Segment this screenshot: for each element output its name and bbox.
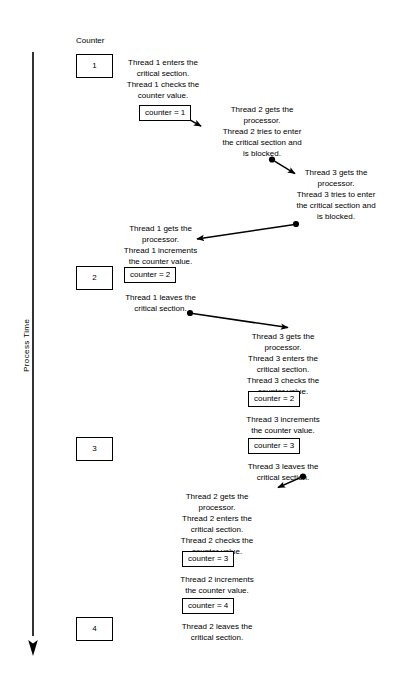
event-thread2-enters: Thread 2 gets the processor. Thread 2 en…: [161, 491, 273, 557]
counter-box-3: 3: [76, 437, 113, 461]
diagram-canvas: Process Time Counter 1 2 3 4 Thread 1 en…: [0, 0, 398, 685]
event-thread2-increments: Thread 2 increments the counter value.: [161, 574, 273, 596]
event-thread2-blocked: Thread 2 gets the processor. Thread 2 tr…: [201, 104, 323, 159]
event-thread2-leaves: Thread 2 leaves the critical section.: [161, 621, 273, 643]
event-thread3-increments: Thread 3 increments the counter value.: [227, 414, 339, 436]
event-thread3-leaves: Thread 3 leaves the critical section.: [227, 461, 339, 483]
value-box-counter-2a: counter = 2: [124, 267, 176, 283]
event-thread3-blocked: Thread 3 gets the processor. Thread 3 tr…: [275, 167, 397, 222]
value-box-counter-1: counter = 1: [139, 105, 191, 121]
event-thread1-gets-processor: Thread 1 gets the processor. Thread 1 in…: [103, 223, 218, 267]
value-box-counter-3a: counter = 3: [248, 438, 300, 454]
value-box-counter-2b: counter = 2: [248, 391, 300, 407]
event-thread1-leaves: Thread 1 leaves the critical section.: [103, 292, 218, 314]
event-thread1-enters: Thread 1 enters the critical section. Th…: [108, 57, 218, 101]
value-box-counter-3b: counter = 3: [182, 551, 234, 567]
process-time-label: Process Time: [22, 319, 31, 372]
counter-box-4: 4: [76, 617, 113, 641]
counter-column-header: Counter: [76, 36, 104, 45]
event-thread3-enters: Thread 3 gets the processor. Thread 3 en…: [227, 331, 339, 397]
value-box-counter-4: counter = 4: [182, 598, 234, 614]
counter-box-2: 2: [76, 266, 113, 290]
